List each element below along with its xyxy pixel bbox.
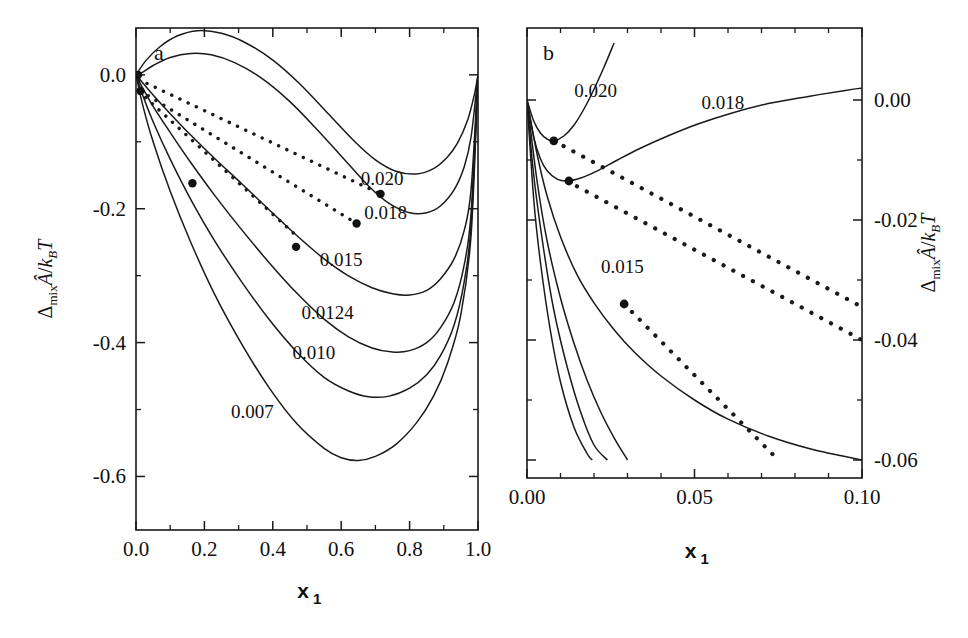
- coexist-point: [564, 177, 573, 186]
- panel-a-xaxis-title: x1: [297, 579, 321, 607]
- curve-label-b-0.015: 0.015: [601, 256, 644, 277]
- panel-b-xaxis-title-main: x: [685, 539, 697, 562]
- coexist-point: [188, 179, 196, 187]
- coexist-point: [352, 219, 360, 227]
- curve-label-b-0.018: 0.018: [702, 92, 745, 113]
- coexist-point: [134, 71, 142, 79]
- panel-b-xticklabel: 0.00: [509, 485, 546, 509]
- panel-a-xticklabel: 0.6: [328, 537, 354, 561]
- curve-label-0.0124: 0.0124: [301, 302, 354, 323]
- panel-b-label: b: [543, 40, 554, 65]
- panel-b-yticklabel: -0.04: [874, 328, 918, 352]
- curve-label-0.020: 0.020: [361, 168, 404, 189]
- tie-0.020: [139, 80, 381, 194]
- panel-b-yticklabel: -0.02: [874, 208, 918, 232]
- curve-label-0.015: 0.015: [320, 249, 363, 270]
- panel-b-curves: [527, 43, 862, 460]
- coexist-point: [376, 190, 384, 198]
- thermodynamics-free-energy-figure: 0.0200.0180.0150.01240.0100.007a0.00.20.…: [0, 0, 968, 638]
- panel-b-xaxis-title-sub: 1: [701, 550, 709, 567]
- curve-0.018: [136, 53, 478, 214]
- curve-label-b-0.020: 0.020: [574, 80, 617, 101]
- coexist-point: [292, 243, 300, 251]
- panel-a-xticklabel: 1.0: [465, 537, 491, 561]
- panel-a-xticklabel: 0.0: [123, 537, 149, 561]
- panel-b-xticklabel: 0.10: [844, 485, 881, 509]
- curve-0.015: [527, 100, 862, 460]
- panel-b-yticklabel: -0.06: [874, 448, 918, 472]
- panel-a-yticklabel: -0.4: [93, 331, 127, 355]
- panel-b-xticklabel: 0.05: [676, 485, 713, 509]
- panel-a-yaxis-title: ΔmixÂ/kBT: [34, 238, 60, 319]
- panel-b-yticklabel: 0.00: [874, 88, 911, 112]
- tie-0.018: [140, 91, 356, 224]
- panel-a-yticklabel: -0.6: [93, 464, 126, 488]
- panel-b-xaxis-title: x1: [685, 539, 709, 567]
- panel-a-yticklabel: 0.0: [100, 63, 126, 87]
- curve-label-0.018: 0.018: [364, 202, 407, 223]
- figure-container: 0.0200.0180.0150.01240.0100.007a0.00.20.…: [0, 0, 968, 638]
- panel-a-yticklabel: -0.2: [93, 197, 126, 221]
- tie-0.020: [554, 141, 862, 307]
- curve-label-0.010: 0.010: [292, 342, 335, 363]
- coexist-point: [549, 136, 558, 145]
- tie-0.015: [624, 304, 778, 460]
- curve-0.018: [527, 88, 862, 181]
- curve-0.015: [136, 75, 478, 295]
- panel-a-curves: [134, 31, 478, 461]
- panel-a-label: a: [154, 40, 164, 65]
- panel-b-yaxis-title-text: ΔmixÂ/kBT: [917, 212, 943, 293]
- panel-a-xticklabel: 0.8: [396, 537, 422, 561]
- panel-a-yaxis-title-text: ΔmixÂ/kBT: [34, 238, 60, 319]
- panel-b-yaxis-title: ΔmixÂ/kBT: [917, 212, 943, 293]
- coexist-point: [136, 87, 144, 95]
- coexist-point: [620, 300, 629, 309]
- curve-label-0.007: 0.007: [231, 401, 274, 422]
- panel-a-xticklabel: 0.4: [260, 537, 287, 561]
- panel-a-xaxis-title-sub: 1: [313, 590, 321, 607]
- panel-a-xticklabel: 0.2: [191, 537, 217, 561]
- panel-a-xaxis-title-main: x: [297, 579, 309, 602]
